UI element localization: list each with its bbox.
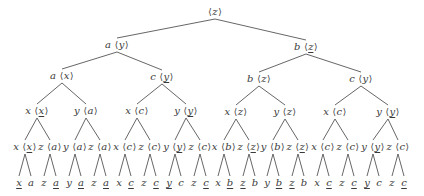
tree-leaf: x	[16, 178, 22, 188]
tree-edge	[388, 119, 398, 140]
tree-edge	[342, 154, 348, 176]
tree-node: z ⟨c⟩	[386, 142, 409, 152]
close-bracket: ⟩	[207, 142, 212, 152]
tree-edge	[323, 119, 335, 140]
close-bracket: ⟩	[107, 142, 112, 152]
node-tag: c	[399, 141, 405, 152]
tree-edge	[150, 154, 156, 176]
close-bracket: ⟩	[313, 42, 318, 52]
node-label: y	[273, 106, 282, 117]
tree-node: z ⟨c⟩	[336, 142, 359, 152]
tree-edge	[25, 118, 37, 140]
tree-edge	[75, 154, 81, 176]
tree-leaf: a	[103, 178, 109, 188]
tree-edge	[398, 154, 404, 176]
tree-leaf: b	[301, 178, 307, 188]
node-label: a	[105, 39, 114, 50]
tree-edge	[392, 154, 398, 176]
tree-edge	[236, 119, 249, 140]
node-tag: z	[287, 106, 292, 117]
tree-leaf: c	[178, 178, 184, 188]
close-bracket: ⟩	[182, 142, 187, 152]
tree-node: z ⟨a⟩	[38, 142, 61, 152]
tree-edge	[323, 154, 329, 176]
tree-leaf: c	[351, 178, 357, 188]
close-bracket: ⟩	[305, 142, 310, 152]
tree-edge	[292, 154, 298, 176]
tree-edge	[224, 154, 230, 176]
tree-leaf: y	[264, 178, 270, 188]
tree-node: z ⟨c⟩	[188, 142, 211, 152]
close-bracket: ⟩	[157, 142, 162, 152]
tree-leaf: x	[116, 178, 122, 188]
tree-node: x ⟨c⟩	[323, 107, 346, 117]
tree-edge	[200, 154, 206, 176]
tree-edge	[137, 84, 162, 104]
tree-edge	[25, 154, 31, 176]
tree-edge	[348, 154, 354, 176]
tree-node: x ⟨x⟩	[13, 142, 37, 152]
tree-edge	[62, 83, 86, 104]
tree-edge	[298, 154, 304, 176]
tree-edge	[194, 154, 200, 176]
tree-edge	[44, 154, 50, 176]
tree-edge	[37, 83, 62, 104]
node-tag: z	[238, 106, 243, 117]
tree-node: x ⟨x⟩	[25, 106, 49, 116]
tree-node: c ⟨y⟩	[150, 72, 173, 82]
tree-edge	[273, 119, 285, 140]
tree-leaf: z	[141, 178, 146, 188]
close-bracket: ⟩	[144, 106, 149, 116]
tree-node: z ⟨z⟩	[287, 142, 310, 152]
node-tag: c	[151, 141, 157, 152]
close-bracket: ⟩	[32, 142, 37, 152]
tree-edge	[215, 19, 306, 40]
tree-node: c ⟨y⟩	[349, 74, 372, 84]
node-tag: b	[225, 141, 231, 152]
node-label: x	[25, 105, 34, 116]
node-label: x	[125, 105, 134, 116]
tree-leaf: z	[240, 178, 245, 188]
tree-edge	[259, 86, 285, 105]
tree-node: z ⟨c⟩	[138, 142, 161, 152]
tree-edge	[125, 154, 131, 176]
tree-edge	[137, 118, 150, 140]
tree-edge	[75, 118, 86, 140]
node-tag: b	[274, 141, 280, 152]
tree-edge	[117, 19, 215, 38]
node-label: a	[50, 70, 59, 81]
tree-leaf: y	[364, 178, 370, 188]
tree-node: y ⟨a⟩	[74, 106, 98, 116]
tree-node: x ⟨c⟩	[311, 142, 334, 152]
tree-node: y ⟨y⟩	[376, 107, 400, 117]
tree-edge	[218, 154, 224, 176]
close-bracket: ⟩	[292, 107, 297, 117]
close-bracket: ⟩	[232, 142, 237, 152]
tree-edge	[50, 154, 56, 176]
close-bracket: ⟩	[256, 142, 261, 152]
tree-edge	[224, 119, 236, 140]
tree-edge	[243, 154, 249, 176]
tree-edge	[186, 118, 200, 140]
tree-leaf: z	[91, 178, 96, 188]
node-label: y	[361, 141, 370, 152]
node-label: b	[294, 41, 304, 52]
tree-leaf: c	[401, 178, 407, 188]
tree-edge	[236, 86, 259, 105]
tree-leaf: a	[28, 178, 34, 188]
node-label: c	[150, 71, 159, 82]
tree-edge	[267, 154, 273, 176]
tree-edges	[0, 0, 424, 196]
tree-node: x ⟨c⟩	[125, 106, 148, 116]
tree-leaf: z	[289, 178, 294, 188]
tree-leaf: c	[326, 178, 332, 188]
tree-leaf: z	[191, 178, 196, 188]
tree-edge	[306, 54, 361, 72]
tree-leaf: y	[166, 178, 172, 188]
tree-edge	[119, 154, 125, 176]
tree-leaf: a	[78, 178, 84, 188]
tree-leaf: c	[203, 178, 209, 188]
tree-edge	[19, 154, 25, 176]
close-bracket: ⟩	[57, 142, 62, 152]
tree-leaf: a	[53, 178, 59, 188]
